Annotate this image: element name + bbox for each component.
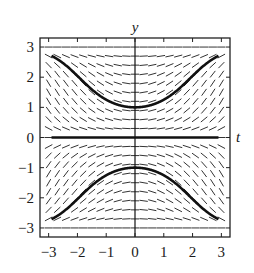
slope-segment [148, 164, 156, 166]
slope-segment [105, 154, 113, 156]
slope-segment [114, 119, 122, 121]
slope-segment [54, 117, 60, 123]
slope-segment [63, 179, 68, 186]
slope-segment [219, 80, 223, 87]
slope-segment [55, 89, 60, 96]
slope-segment [80, 98, 86, 104]
slope-segment [192, 162, 198, 168]
slope-segment [71, 153, 78, 158]
slope-segment [89, 99, 95, 104]
slope-segment [184, 108, 190, 113]
slope-segment [72, 162, 78, 168]
slope-segment [210, 188, 215, 195]
slope-segment [157, 128, 165, 129]
slope-segment [80, 171, 86, 177]
slope-segment [219, 98, 223, 105]
slope-segment [148, 109, 156, 111]
slope-segment [183, 218, 191, 221]
slope-segment [148, 200, 156, 202]
slope-segment [122, 119, 130, 120]
slope-segment [122, 173, 130, 174]
slope-segment [139, 65, 147, 66]
slope-segment [55, 188, 60, 195]
y-tick-label: 2 [27, 69, 35, 85]
slope-segment [55, 80, 60, 87]
slope-segment [157, 64, 165, 66]
slope-segment [105, 118, 113, 120]
slope-segment [157, 218, 165, 219]
slope-segment [218, 207, 224, 213]
slope-segment [193, 171, 199, 177]
slope-segment [192, 217, 200, 220]
slope-segment [192, 117, 199, 122]
slope-segment [192, 63, 199, 68]
slope-segment [166, 163, 173, 167]
slope-segment [46, 153, 52, 159]
y-tick-label: 1 [27, 99, 35, 115]
slope-segment [148, 100, 156, 103]
slope-segment [193, 89, 198, 95]
slope-segment [148, 73, 156, 75]
slope-segment [139, 191, 147, 192]
slope-segment [62, 127, 70, 130]
slope-segment [105, 146, 113, 147]
slope-segment [175, 198, 182, 203]
slope-segment [165, 146, 173, 148]
x-tick-label: −3 [41, 244, 57, 260]
slope-segment [166, 118, 174, 121]
slope-segment [166, 154, 174, 157]
x-tick-label: 0 [131, 244, 139, 260]
slope-segment [105, 163, 113, 166]
slope-segment [139, 74, 147, 75]
slope-segment [47, 179, 51, 186]
slope-segment [148, 155, 156, 157]
slope-segment [97, 171, 104, 176]
slope-segment [114, 64, 122, 66]
slope-segment [210, 80, 215, 87]
slope-segment [72, 107, 78, 113]
slope-segment [80, 180, 86, 186]
slope-segment [175, 99, 181, 104]
slope-segment [46, 107, 51, 114]
slope-segment [55, 179, 60, 186]
slope-segment [46, 116, 52, 122]
slope-segment [219, 161, 224, 168]
slope-segment [80, 63, 87, 67]
slope-segment [105, 218, 113, 219]
slope-segment [114, 82, 122, 85]
slope-segment [139, 155, 147, 156]
slope-segment [166, 108, 173, 112]
slope-segment [209, 145, 217, 149]
slope-segment [53, 127, 61, 131]
slope-segment [114, 164, 122, 166]
slope-segment [165, 128, 173, 130]
slope-segment [55, 170, 60, 177]
slope-segment [202, 89, 207, 96]
slope-segment [55, 198, 60, 205]
y-tick-label: −2 [18, 190, 34, 206]
slope-segment [210, 117, 216, 123]
slope-segment [218, 126, 225, 130]
slope-segment [122, 110, 130, 111]
slope-segment [219, 188, 223, 195]
y-tick-label: 0 [27, 130, 35, 146]
x-tick-label: 1 [160, 244, 168, 260]
slope-segment [219, 170, 223, 177]
slope-segment [122, 65, 130, 66]
slope-segment [219, 197, 224, 204]
slope-segment [184, 98, 190, 104]
slope-segment [63, 80, 68, 87]
slope-segment [148, 82, 156, 85]
slope-segment [219, 107, 224, 114]
slope-segment [218, 217, 225, 221]
slope-segment [148, 172, 156, 175]
slope-segment [63, 170, 68, 177]
slope-segment [201, 162, 207, 168]
slope-segment [55, 161, 60, 168]
slope-segment [71, 127, 79, 130]
slope-segment [105, 190, 113, 194]
slope-segment [71, 117, 78, 122]
slope-segment [201, 198, 207, 204]
slope-segment [46, 71, 51, 78]
slope-segment [72, 89, 77, 95]
